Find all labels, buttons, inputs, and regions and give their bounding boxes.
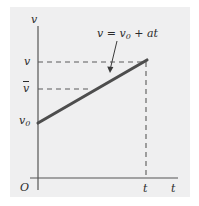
tick-label-v-initial: v0 bbox=[19, 115, 30, 128]
equation-rhs-subscript: 0 bbox=[126, 32, 131, 41]
velocity-time-figure: v t O v v v0 t v = v0 + at bbox=[0, 0, 199, 206]
equation-plus: + bbox=[134, 27, 143, 40]
tick-label-v-average: v bbox=[23, 83, 29, 94]
velocity-line bbox=[38, 60, 147, 123]
equation-rhs-term: at bbox=[147, 27, 158, 40]
v-average-overbar: v bbox=[23, 83, 29, 94]
x-axis-label: t bbox=[171, 183, 175, 194]
annotation-leader-line bbox=[110, 41, 117, 70]
equation-lhs: v bbox=[97, 27, 103, 40]
origin-label: O bbox=[20, 182, 29, 193]
equation-annotation: v = v0 + at bbox=[97, 28, 158, 41]
tick-label-t-final: t bbox=[143, 183, 147, 194]
tick-label-v-final: v bbox=[24, 56, 30, 67]
v-initial-subscript: 0 bbox=[25, 119, 30, 128]
y-axis-label: v bbox=[31, 14, 37, 25]
equation-equals: = bbox=[107, 27, 116, 40]
annotation-arrowhead-icon bbox=[107, 67, 113, 73]
